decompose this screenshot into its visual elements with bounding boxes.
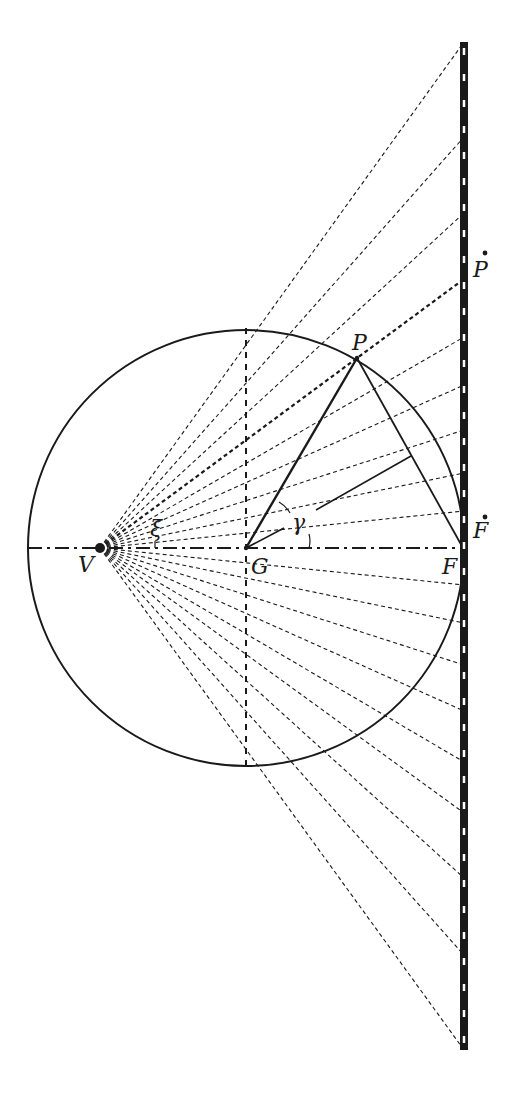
gamma-angle-arc-lower [309, 534, 310, 548]
optics-diagram: V G F P F P ξ γ [0, 0, 515, 1094]
label-xi: ξ [150, 516, 164, 541]
ray [100, 548, 464, 762]
segment-pf [357, 358, 463, 548]
ray [100, 548, 464, 665]
label-gamma: γ [292, 510, 306, 535]
ray [100, 548, 464, 813]
point-v-marker [95, 543, 105, 553]
ray-v-to-p-dot [100, 279, 464, 548]
ray [100, 42, 464, 548]
bisector-segment-upper [316, 456, 411, 510]
point-g-marker [244, 546, 248, 550]
gamma-angle-arc-upper [279, 502, 290, 513]
label-p-dot: P [472, 257, 489, 282]
label-v: V [78, 552, 96, 577]
f-dot-marker [483, 515, 488, 520]
label-f-dot: F [472, 518, 489, 543]
ray [100, 548, 464, 623]
ray [100, 548, 464, 711]
ray [100, 213, 464, 548]
point-p-marker [355, 356, 359, 360]
ray [100, 548, 464, 1050]
label-g: G [251, 554, 269, 579]
ray [100, 548, 464, 585]
label-f: F [441, 554, 458, 579]
label-p: P [351, 330, 368, 355]
ray [100, 548, 464, 955]
ray [100, 548, 464, 878]
p-dot-marker [483, 251, 488, 256]
